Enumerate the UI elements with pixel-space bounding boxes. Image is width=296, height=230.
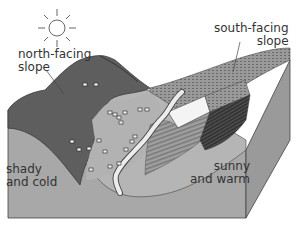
sunny-and-warm-label: sunny and warm [190,160,250,186]
south-facing-slope-label: south-facing slope [214,22,289,48]
block-right-face [246,60,290,218]
north-facing-slope-label: north-facing slope [18,48,91,74]
valley-diagram: north-facing slope south-facing slope sh… [0,0,296,230]
sun-icon [38,9,76,47]
shady-and-cold-label: shady and cold [6,163,57,189]
